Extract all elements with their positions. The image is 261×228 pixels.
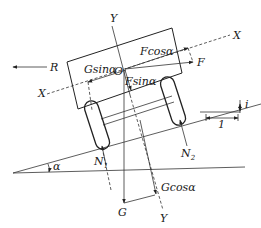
angle-arc-icon — [48, 164, 49, 172]
y-axis-label-bottom: Y — [160, 212, 169, 225]
force-gcos-label: Gcosα — [161, 181, 196, 194]
force-gsin-label: Gsinα — [84, 63, 117, 76]
x-axis-label-right: X — [232, 29, 242, 42]
rise-label: i — [245, 98, 249, 111]
free-body-diagram: α X X Y Y O R Gsinα Fcosα F Fsinα G Gcos… — [0, 0, 261, 228]
force-g-label: G — [118, 206, 127, 219]
g-projection — [124, 195, 155, 203]
force-n1-label: N1 — [93, 155, 108, 170]
force-f-label: F — [196, 56, 205, 69]
run-label: 1 — [218, 118, 225, 131]
front-wheel — [159, 75, 188, 127]
force-fsin-label: Fsinα — [124, 75, 157, 88]
force-gcos-arrow — [140, 120, 156, 194]
rear-wheel — [83, 99, 112, 151]
ground-line — [13, 167, 245, 173]
y-axis-lower — [130, 95, 163, 210]
alpha-label: α — [53, 160, 61, 173]
axle-lower — [103, 102, 174, 125]
force-fcos-label: Fcosα — [139, 45, 174, 58]
f-projection — [188, 48, 193, 62]
axle-upper — [101, 96, 172, 119]
x-axis-label-left: X — [37, 87, 47, 100]
y-axis-label-top: Y — [110, 12, 119, 25]
force-r-label: R — [49, 61, 58, 74]
force-n2-label: N2 — [180, 147, 196, 162]
